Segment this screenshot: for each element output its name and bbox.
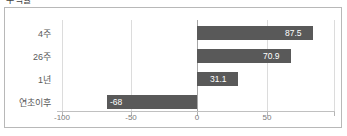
bar-value-label: 70.9 [263, 51, 280, 61]
category-label: 연초이후 [19, 96, 51, 109]
chart-title: 수익률 [6, 0, 32, 6]
category-label: 26주 [33, 50, 51, 63]
chart-frame: 4주 26주 1년 연초이후 87.5 70.9 31.1 -68 [4, 7, 342, 128]
bar-value-label: 87.5 [285, 28, 302, 38]
category-axis: 4주 26주 1년 연초이후 [5, 20, 51, 112]
tickmark [334, 112, 335, 116]
x-tick-label: 50 [263, 113, 272, 122]
chart-container: 수익률 4주 26주 1년 연초이후 87.5 70.9 31.1 -68 [0, 0, 347, 136]
plot-area: 87.5 70.9 31.1 -68 -100 -50 0 50 [57, 20, 335, 112]
x-tick-label: -50 [125, 113, 137, 122]
category-label: 1년 [38, 73, 51, 86]
x-axis-baseline [57, 111, 335, 112]
x-tick-label: 0 [195, 113, 199, 122]
bar-value-label: 31.1 [210, 74, 227, 84]
category-label: 4주 [38, 27, 51, 40]
gridline-neg100 [62, 20, 63, 112]
gridline-right-edge [334, 20, 335, 112]
x-tick-label: -100 [54, 113, 70, 122]
bar-value-label: -68 [110, 97, 122, 107]
